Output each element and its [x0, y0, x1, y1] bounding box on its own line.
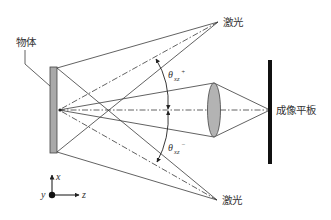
lens: [208, 83, 221, 137]
imaging-plate-label: 成像平板: [276, 104, 317, 116]
svg-text:−: −: [181, 141, 185, 148]
svg-text:xz: xz: [173, 75, 180, 82]
laser-top-label: 激光: [223, 16, 244, 28]
object-label: 物体: [16, 36, 37, 48]
top-laser-rays: [57, 22, 218, 152]
svg-text:θ: θ: [168, 142, 173, 153]
axis-z-label: z: [81, 189, 86, 200]
svg-text:+: +: [181, 68, 185, 75]
imaging-plate: [268, 60, 272, 164]
object-bar: [50, 67, 57, 153]
svg-text:xz: xz: [173, 148, 180, 155]
angle-bottom-label: θ xz −: [168, 141, 185, 155]
laser-bottom-label: 激光: [222, 194, 243, 206]
angle-arc: [156, 59, 168, 162]
svg-text:θ: θ: [168, 69, 173, 80]
axis-y-label: y: [40, 189, 46, 200]
axis-x-label: x: [55, 171, 61, 182]
angle-top-label: θ xz +: [168, 68, 185, 82]
object-leader-line: [25, 50, 50, 86]
object-center-point: [58, 108, 61, 111]
optical-diagram: 物体 成像平板 激光 激光 θ xz + θ: [0, 0, 331, 220]
coordinate-axes: x y z: [40, 171, 86, 200]
